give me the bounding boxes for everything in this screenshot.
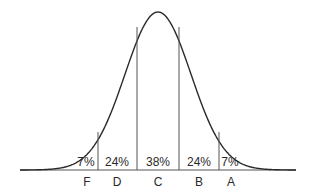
percent-label-b: 24% <box>187 155 211 169</box>
grade-label-c: C <box>154 175 163 189</box>
percent-label-c: 38% <box>146 155 170 169</box>
percent-label-f: 7% <box>77 155 95 169</box>
bell-curve <box>20 12 296 170</box>
grade-label-d: D <box>113 175 122 189</box>
percent-label-d: 24% <box>105 155 129 169</box>
percent-label-a: 7% <box>221 155 239 169</box>
grade-label-f: F <box>83 175 90 189</box>
grade-label-a: A <box>227 175 235 189</box>
bell-curve-chart: 7% 24% 38% 24% 7% F D C B A <box>0 0 310 192</box>
grade-label-b: B <box>195 175 203 189</box>
